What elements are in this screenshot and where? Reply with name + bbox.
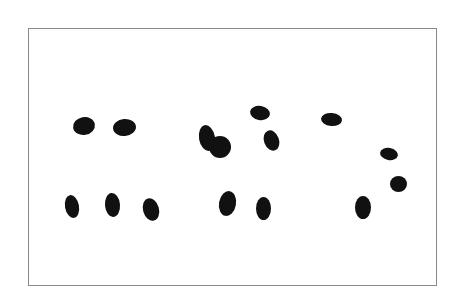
ink-blot (209, 136, 231, 158)
ink-blot (390, 176, 407, 192)
ink-blot (355, 196, 371, 219)
ink-blot (256, 197, 271, 220)
image-frame (28, 28, 437, 286)
